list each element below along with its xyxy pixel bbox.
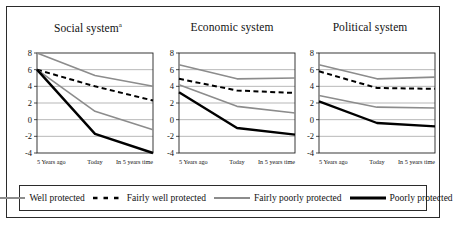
y-axis-tick-label: -4 — [307, 148, 315, 158]
legend-swatch-solid-icon — [212, 193, 252, 203]
legend-swatch-dashed-icon — [91, 193, 125, 203]
x-axis-category-label: 5 Years ago — [179, 158, 208, 165]
chart-panel-economic: 86420-2-45 Years agoTodayIn 5 years time — [157, 47, 303, 179]
chart-titles-row: Social systema Economic system Political… — [7, 21, 439, 39]
legend-item-label: Well protected — [27, 193, 90, 203]
series-line — [179, 65, 295, 79]
legend-swatch-solid-icon — [348, 193, 388, 203]
y-axis-tick-label: -2 — [307, 131, 314, 141]
y-axis-tick-label: 8 — [310, 48, 314, 58]
y-axis-tick-label: 2 — [170, 98, 174, 108]
plot-area-1: 86420-2-45 Years agoTodayIn 5 years time — [157, 47, 303, 179]
y-axis-tick-label: 0 — [28, 115, 32, 125]
x-axis-category-label: In 5 years time — [398, 158, 435, 165]
legend-item: Well protected — [0, 193, 91, 203]
y-axis-tick-label: 0 — [170, 115, 174, 125]
y-axis-tick-label: -2 — [167, 131, 174, 141]
plot-area-0: 86420-2-45 Years agoTodayIn 5 years time — [15, 47, 161, 179]
chart-title-social-footnote-marker: a — [119, 21, 122, 29]
x-axis-category-label: 5 Years ago — [319, 158, 348, 165]
y-axis-tick-label: 6 — [28, 65, 32, 75]
figure-frame: Social systema Economic system Political… — [6, 6, 440, 218]
y-axis-tick-label: -4 — [167, 148, 175, 158]
series-line — [37, 70, 153, 101]
legend: Well protectedFairly well protectedFairl… — [19, 185, 427, 211]
y-axis-tick-label: 8 — [170, 48, 174, 58]
y-axis-tick-label: -4 — [25, 148, 33, 158]
y-axis-tick-label: 0 — [310, 115, 314, 125]
y-axis-tick-label: -2 — [25, 131, 32, 141]
x-axis-category-label: In 5 years time — [258, 158, 295, 165]
x-axis-category-label: Today — [229, 158, 245, 165]
chart-panel-social: 86420-2-45 Years agoTodayIn 5 years time — [15, 47, 161, 179]
chart-title-political-text: Political system — [333, 21, 408, 33]
y-axis-tick-label: 2 — [28, 98, 32, 108]
x-axis-category-label: Today — [369, 158, 385, 165]
series-line — [319, 101, 435, 126]
legend-item: Fairly well protected — [91, 193, 212, 203]
legend-swatch-solid-icon — [0, 193, 27, 203]
y-axis-tick-label: 6 — [310, 65, 314, 75]
chart-title-economic-text: Economic system — [191, 21, 274, 33]
chart-panel-political: 86420-2-45 Years agoTodayIn 5 years time — [297, 47, 443, 179]
y-axis-tick-label: 4 — [310, 81, 315, 91]
y-axis-tick-label: 6 — [170, 65, 174, 75]
legend-item-label: Fairly poorly protected — [252, 193, 348, 203]
series-line — [37, 70, 153, 130]
x-axis-category-label: 5 Years ago — [37, 158, 66, 165]
y-axis-tick-label: 2 — [310, 98, 314, 108]
legend-item-label: Poorly protected — [388, 193, 457, 203]
legend-item: Fairly poorly protected — [212, 193, 348, 203]
legend-item: Poorly protected — [348, 193, 457, 203]
x-axis-category-label: Today — [87, 158, 103, 165]
chart-title-political: Political system — [295, 21, 445, 33]
series-line — [179, 85, 295, 113]
series-line — [179, 92, 295, 134]
series-line — [319, 96, 435, 109]
y-axis-tick-label: 4 — [28, 81, 33, 91]
x-axis-category-label: In 5 years time — [116, 158, 153, 165]
y-axis-tick-label: 8 — [28, 48, 32, 58]
plot-area-2: 86420-2-45 Years agoTodayIn 5 years time — [297, 47, 443, 179]
y-axis-tick-label: 4 — [170, 81, 175, 91]
chart-title-social-text: Social system — [54, 22, 119, 34]
legend-item-label: Fairly well protected — [125, 193, 212, 203]
chart-title-social: Social systema — [13, 21, 163, 34]
chart-title-economic: Economic system — [157, 21, 307, 33]
